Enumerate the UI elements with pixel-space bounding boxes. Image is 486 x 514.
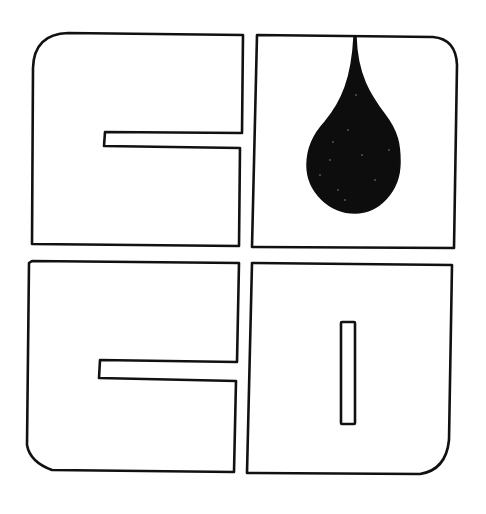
logo bbox=[0, 0, 486, 514]
bottom-left-c-shape bbox=[27, 261, 239, 472]
bottom-right-slot bbox=[341, 322, 355, 424]
top-left-c-shape bbox=[32, 33, 243, 246]
logo-graphic bbox=[0, 0, 486, 514]
